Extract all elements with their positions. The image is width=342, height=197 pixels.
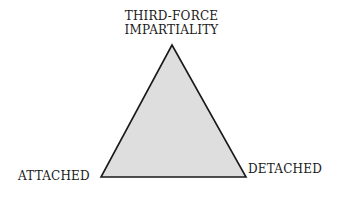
vertex-label-left: ATTACHED [18,169,90,183]
vertex-label-right: DETACHED [248,162,322,176]
top-label-line2: IMPARTIALITY [1,23,342,37]
top-label-line1: THIRD-FORCE [1,9,342,23]
vertex-label-top: THIRD-FORCE IMPARTIALITY [0,9,342,37]
triangle-diagram: THIRD-FORCE IMPARTIALITY ATTACHED DETACH… [0,0,342,197]
